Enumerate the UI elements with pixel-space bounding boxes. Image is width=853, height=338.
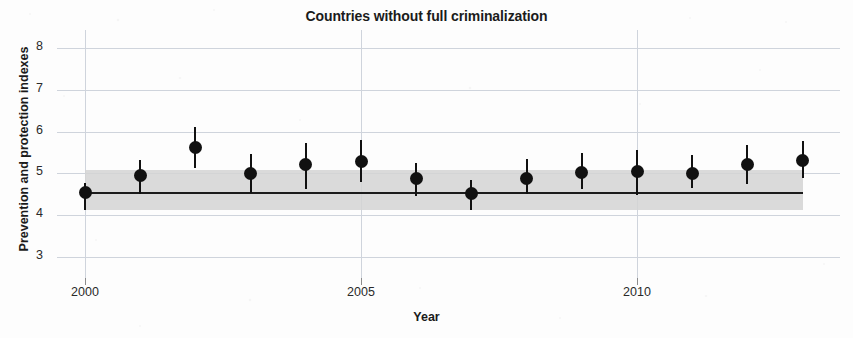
x-tick-mark (637, 278, 638, 285)
data-point (686, 167, 699, 180)
data-point (79, 186, 92, 199)
plot-area: 200020052010 (57, 30, 840, 278)
page-title: Countries without full criminalization (0, 8, 853, 24)
data-point (575, 166, 588, 179)
y-tick-label: 5 (9, 164, 43, 178)
data-point (741, 158, 754, 171)
x-axis-label: Year (0, 310, 853, 324)
y-tick-label: 6 (9, 123, 43, 137)
x-tick-label: 2005 (321, 285, 401, 299)
gridline-horizontal (57, 90, 840, 91)
data-point (465, 187, 478, 200)
data-point (410, 172, 423, 185)
x-tick-mark (85, 278, 86, 285)
y-tick-label: 4 (9, 206, 43, 220)
gridline-horizontal (57, 215, 840, 216)
y-axis-label: Prevention and protection indexes (17, 19, 31, 279)
x-tick-mark (361, 278, 362, 285)
gridline-horizontal (57, 132, 840, 133)
y-tick-label: 7 (9, 81, 43, 95)
data-point (631, 165, 644, 178)
gridline-horizontal (57, 48, 840, 49)
x-tick-label: 2010 (597, 285, 677, 299)
data-point (134, 169, 147, 182)
y-tick-label: 8 (9, 39, 43, 53)
reference-line (85, 192, 803, 194)
data-point (299, 158, 312, 171)
y-tick-label: 3 (9, 248, 43, 262)
data-point (189, 141, 202, 154)
data-point (355, 155, 368, 168)
gridline-vertical (85, 30, 86, 278)
data-point (796, 154, 809, 167)
gridline-horizontal (57, 257, 840, 258)
chart-figure: Countries without full criminalization P… (0, 0, 853, 338)
x-tick-label: 2000 (45, 285, 125, 299)
